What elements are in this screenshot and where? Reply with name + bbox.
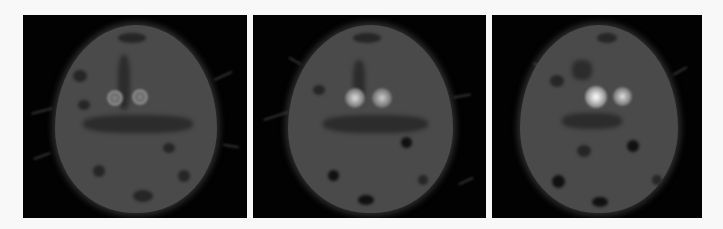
- scan-panel-3: [492, 15, 702, 218]
- bright-spot-left: [107, 90, 123, 106]
- dark-cavity: [73, 70, 87, 82]
- dark-cavity: [313, 85, 325, 95]
- background-noise-streak: [223, 144, 239, 149]
- dark-cavity: [562, 113, 622, 129]
- dark-cavity: [552, 175, 565, 188]
- dark-cavity: [592, 197, 608, 207]
- dark-cavity: [652, 175, 662, 185]
- background-noise-streak: [458, 177, 473, 186]
- dark-cavity: [572, 60, 592, 80]
- bright-spot-left: [345, 88, 365, 108]
- dark-cavity: [78, 100, 90, 110]
- dark-cavity: [93, 165, 105, 177]
- background-noise-streak: [673, 66, 688, 76]
- bright-spot-right: [613, 87, 632, 106]
- background-noise-streak: [453, 93, 471, 98]
- bright-spot-left: [585, 86, 607, 108]
- dark-cavity: [627, 140, 639, 152]
- background-noise-streak: [214, 71, 233, 81]
- dark-cavity: [163, 143, 175, 153]
- dark-cavity: [550, 75, 564, 87]
- background-noise-streak: [288, 57, 301, 66]
- dark-cavity: [83, 115, 193, 133]
- bright-spot-right: [132, 89, 148, 105]
- dark-cavity: [577, 145, 591, 157]
- dark-cavity: [328, 170, 339, 181]
- dark-cavity: [597, 33, 617, 43]
- background-noise-streak: [33, 152, 51, 160]
- dark-cavity: [118, 33, 146, 43]
- dark-cavity: [418, 175, 428, 185]
- dark-cavity: [401, 137, 412, 148]
- scan-figure: [0, 0, 723, 229]
- background-noise-streak: [263, 111, 288, 121]
- dark-cavity: [133, 190, 153, 202]
- dark-cavity: [353, 33, 381, 43]
- dark-cavity: [178, 170, 190, 182]
- bright-spot-right: [372, 88, 392, 108]
- dark-cavity: [323, 115, 428, 133]
- background-noise-streak: [31, 107, 53, 115]
- scan-panel-2: [253, 15, 486, 218]
- dark-cavity: [358, 195, 374, 205]
- scan-panel-1: [23, 15, 247, 218]
